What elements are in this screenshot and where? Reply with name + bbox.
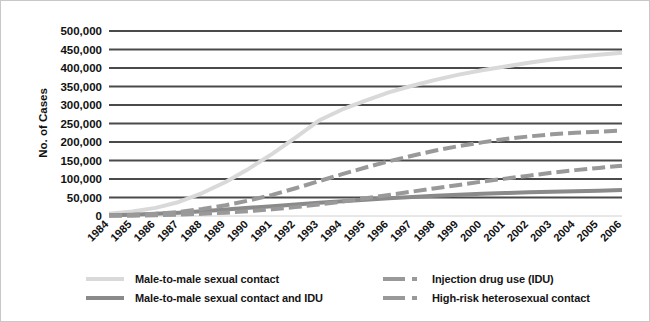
x-axis-tick-label: 1997 [388,218,414,244]
legend-swatch-solid [86,296,124,300]
y-axis-tick-labels: 500,000450,000400,000350,000300,000250,0… [60,25,102,222]
y-axis-tick-label: 450,000 [60,44,102,56]
x-axis-tick-label: 1986 [131,218,157,244]
y-axis-tick-label: 400,000 [60,62,102,74]
legend-column-left: Male-to-male sexual contactMale-to-male … [86,269,323,307]
legend-item[interactable]: Male-to-male sexual contact and IDU [86,288,323,307]
legend-item-label: Male-to-male sexual contact [135,273,279,285]
series-line [109,53,622,214]
line-chart-svg: 500,000450,000400,000350,000300,000250,0… [1,1,650,259]
y-axis-tick-label: 200,000 [60,136,102,148]
legend-swatch-solid [86,277,124,281]
x-axis-tick-label: 2002 [504,218,530,244]
y-axis-tick-label: 100,000 [60,173,102,185]
data-series-group [109,53,622,216]
x-axis-tick-label: 1998 [411,218,437,244]
y-axis-title: No. of Cases [37,88,49,158]
chart-figure: 500,000450,000400,000350,000300,000250,0… [0,0,650,322]
x-axis-tick-label: 1993 [294,218,320,244]
y-axis-tick-label: 150,000 [60,155,102,167]
chart-legend: Male-to-male sexual contactMale-to-male … [1,259,650,321]
x-axis-tick-label: 1995 [341,218,367,244]
x-axis-tick-label: 1991 [248,218,274,244]
x-axis-tick-label: 1992 [271,218,297,244]
y-axis-tick-label: 500,000 [60,25,102,37]
y-axis-tick-label: 300,000 [60,99,102,111]
x-axis-tick-label: 2000 [458,218,484,244]
x-axis-tick-label: 1996 [364,218,390,244]
x-axis-tick-label: 1984 [85,217,111,243]
x-axis-tick-label: 2005 [574,218,600,244]
legend-item[interactable]: Injection drug use (IDU) [383,269,590,288]
x-axis-tick-label: 1987 [155,218,181,244]
x-axis-tick-label: 1989 [201,218,227,244]
x-axis-tick-label: 1988 [178,218,204,244]
x-axis-tick-label: 2004 [551,217,577,243]
y-axis-tick-label: 250,000 [60,118,102,130]
x-axis-tick-labels: 1984198519861987198819891990199119921993… [85,217,624,243]
y-axis-tick-label: 50,000 [67,192,102,204]
legend-column-right: Injection drug use (IDU)High-risk hetero… [383,269,590,307]
x-axis-tick-label: 2001 [481,218,507,244]
legend-item-label: High-risk heterosexual contact [432,292,590,304]
legend-item-label: Injection drug use (IDU) [432,273,554,285]
x-axis-tick-label: 2003 [528,218,554,244]
legend-item[interactable]: High-risk heterosexual contact [383,288,590,307]
legend-swatch-dashed [383,277,421,281]
x-axis-tick-label: 1994 [318,217,344,243]
legend-swatch-dashed [383,296,421,300]
x-axis-tick-label: 1990 [225,218,251,244]
x-axis-tick-label: 1985 [108,218,134,244]
legend-item-label: Male-to-male sexual contact and IDU [135,292,323,304]
chart-plot-area: 500,000450,000400,000350,000300,000250,0… [1,1,650,259]
x-axis-tick-label: 1999 [434,218,460,244]
y-axis-tick-label: 350,000 [60,81,102,93]
legend-item[interactable]: Male-to-male sexual contact [86,269,323,288]
x-axis-tick-label: 2006 [598,218,624,244]
